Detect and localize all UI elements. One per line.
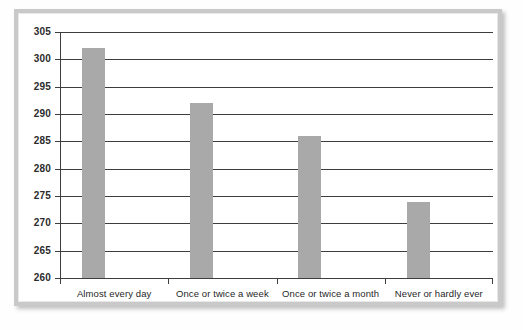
y-axis-label-280: 280 [17, 163, 51, 174]
x-tick-4 [492, 278, 493, 284]
plot-area: 305 300 295 290 285 280 275 270 265 260 … [60, 32, 493, 278]
x-tick-0 [60, 278, 61, 284]
gridline-305 [60, 32, 493, 33]
gridline-300 [60, 59, 493, 60]
y-tick-290 [55, 114, 60, 115]
y-axis-label-285: 285 [17, 135, 51, 146]
y-axis-label-270: 270 [17, 217, 51, 228]
y-axis-label-290: 290 [17, 108, 51, 119]
y-tick-285 [55, 141, 60, 142]
x-axis-label-never-or-hardly-ever: Never or hardly ever [365, 288, 514, 299]
gridline-285 [60, 141, 493, 142]
y-tick-280 [55, 169, 60, 170]
x-tick-1 [168, 278, 169, 284]
x-tick-2 [277, 278, 278, 284]
y-tick-270 [55, 223, 60, 224]
x-tick-3 [385, 278, 386, 284]
gridline-280 [60, 169, 493, 170]
bar-once-or-twice-a-week [190, 103, 213, 278]
y-tick-275 [55, 196, 60, 197]
y-axis-label-295: 295 [17, 81, 51, 92]
y-tick-300 [55, 59, 60, 60]
gridline-290 [60, 114, 493, 115]
y-tick-295 [55, 87, 60, 88]
gridline-295 [60, 87, 493, 88]
y-tick-265 [55, 251, 60, 252]
chart-page: 305 300 295 290 285 280 275 270 265 260 … [0, 0, 523, 330]
bar-almost-every-day [82, 48, 105, 278]
y-axis-line [60, 32, 61, 278]
y-tick-305 [55, 32, 60, 33]
bar-never-or-hardly-ever [407, 202, 430, 279]
y-axis-label-275: 275 [17, 190, 51, 201]
y-axis-label-305: 305 [17, 26, 51, 37]
y-axis-label-300: 300 [17, 53, 51, 64]
y-axis-label-265: 265 [17, 245, 51, 256]
gridline-275 [60, 196, 493, 197]
y-axis-label-260: 260 [17, 272, 51, 283]
bar-once-or-twice-a-month [298, 136, 321, 278]
